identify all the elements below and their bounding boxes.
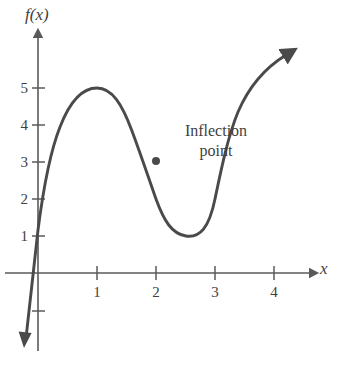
annotation-line-2: point (160, 141, 272, 161)
plot-canvas (0, 0, 339, 373)
y-axis-label: f(x) (25, 6, 49, 23)
inflection-point-marker (152, 157, 160, 165)
curve-start-arrowhead (19, 331, 32, 348)
x-tick-label-3: 3 (206, 285, 224, 300)
y-tick-label-3: 3 (12, 155, 28, 170)
x-tick-label-2: 2 (147, 285, 165, 300)
inflection-point-annotation: Inflection point (160, 121, 272, 162)
y-tick-label-2: 2 (12, 192, 28, 207)
y-tick-label-4: 4 (12, 118, 28, 133)
y-tick-label-5: 5 (12, 81, 28, 96)
annotation-line-1: Inflection (160, 121, 272, 141)
x-tick-label-1: 1 (88, 285, 106, 300)
x-tick-label-4: 4 (265, 285, 283, 300)
function-graph-figure: f(x) x 1 2 3 4 5 1 2 3 4 Inflection poin… (0, 0, 339, 373)
x-axis-label: x (320, 260, 328, 277)
y-tick-label-1: 1 (12, 229, 28, 244)
